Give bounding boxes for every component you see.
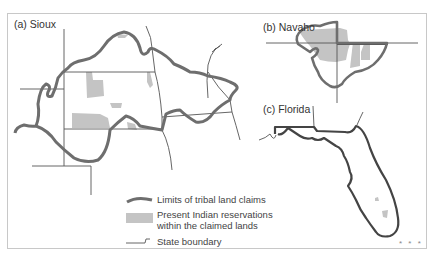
- panel-label-sioux: (a) Sioux: [14, 18, 56, 30]
- legend-claim-label: Limits of tribal land claims: [157, 194, 266, 205]
- sioux-claim-limit: [15, 32, 237, 162]
- navaho-map: [266, 22, 418, 103]
- sioux-map: [15, 26, 240, 195]
- legend-claim-swatch: [127, 198, 152, 202]
- legend-symbols: [126, 198, 153, 243]
- florida-map: [259, 106, 398, 237]
- florida-outline: [275, 126, 398, 237]
- sioux-state-boundaries: [20, 26, 240, 195]
- footer-mark: * * *: [399, 239, 423, 248]
- legend-reservation-swatch: [126, 213, 153, 223]
- panel-label-florida: (c) Florida: [263, 103, 310, 115]
- legend-reservation-label-2: within the claimed lands: [157, 220, 258, 231]
- legend-state-swatch: [126, 239, 150, 243]
- legend-reservation-label: Present Indian reservations: [157, 209, 273, 220]
- panel-label-navaho: (b) Navaho: [263, 21, 315, 33]
- legend-state-label: State boundary: [157, 236, 221, 247]
